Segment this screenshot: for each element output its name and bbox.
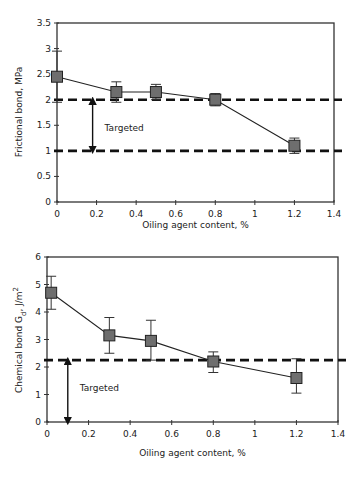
y-tick-label: 1 <box>45 146 51 156</box>
y-tick-label: 4 <box>35 307 41 317</box>
x-tick-label: 0.2 <box>89 209 103 219</box>
data-point-square <box>208 356 219 367</box>
y-tick-label: 0 <box>35 417 41 427</box>
x-tick-label: 0.2 <box>81 429 95 439</box>
y-tick-label: 2 <box>35 362 41 372</box>
x-tick-label: 0.8 <box>206 429 221 439</box>
x-tick-label: 0 <box>54 209 60 219</box>
x-tick-label: 0.4 <box>123 429 138 439</box>
x-tick-label: 0.8 <box>208 209 223 219</box>
y-tick-label: 3 <box>45 44 51 54</box>
y-tick-label: 2.5 <box>37 69 51 79</box>
data-point-square <box>52 71 63 82</box>
targeted-annotation: Targeted <box>79 383 119 393</box>
x-tick-label: 0.4 <box>129 209 144 219</box>
x-tick-label: 1.4 <box>327 209 342 219</box>
plot-frame <box>47 257 338 422</box>
data-point-square <box>210 94 221 105</box>
y-tick-label: 3 <box>35 335 41 345</box>
y-tick-label: 1.5 <box>37 120 51 130</box>
data-point-square <box>289 140 300 151</box>
targeted-annotation: Targeted <box>104 123 144 133</box>
y-tick-label: 0 <box>45 197 51 207</box>
data-point-square <box>46 287 57 298</box>
chart-2: 012345600.20.40.60.811.21.4Oiling agent … <box>12 252 346 458</box>
x-axis-label: Oiling agent content, % <box>142 220 249 230</box>
x-tick-label: 1.2 <box>287 209 301 219</box>
y-tick-label: 6 <box>35 252 41 262</box>
data-point-square <box>291 373 302 384</box>
x-tick-label: 1 <box>252 209 258 219</box>
x-axis-label: Oiling agent content, % <box>139 448 246 458</box>
y-tick-label: 3.5 <box>37 18 51 28</box>
y-tick-label: 5 <box>35 280 41 290</box>
data-point-square <box>150 87 161 98</box>
data-point-square <box>104 330 115 341</box>
series-line <box>51 293 296 378</box>
chart-1: 00.511.522.533.500.20.40.60.811.21.4Oili… <box>14 18 342 230</box>
figure: 00.511.522.533.500.20.40.60.811.21.4Oili… <box>0 0 361 478</box>
data-point-square <box>145 335 156 346</box>
x-tick-label: 0.6 <box>165 429 180 439</box>
y-axis-label: Frictional bond, MPa <box>14 67 24 157</box>
data-point-square <box>111 87 122 98</box>
x-tick-label: 0 <box>44 429 50 439</box>
x-tick-label: 1 <box>252 429 258 439</box>
x-tick-label: 1.2 <box>289 429 303 439</box>
plot-frame <box>57 23 334 202</box>
y-axis-label: Chemical bond Gd, J/m2 <box>12 287 28 393</box>
y-tick-label: 2 <box>45 95 51 105</box>
y-tick-label: 1 <box>35 390 41 400</box>
x-tick-label: 0.6 <box>169 209 184 219</box>
x-tick-label: 1.4 <box>331 429 346 439</box>
y-tick-label: 0.5 <box>37 171 51 181</box>
